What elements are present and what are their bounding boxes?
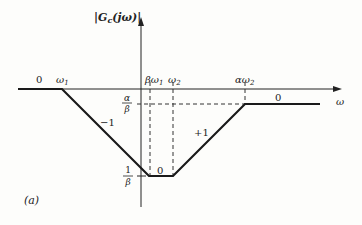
- slope-bottom-flat: 0: [157, 165, 163, 176]
- x-axis-label: ω: [336, 96, 344, 107]
- label-w2: ω2: [168, 74, 181, 87]
- slope-right-flat: 0: [275, 92, 281, 103]
- tick-alpha-over-beta: α β: [122, 93, 132, 114]
- x-axis-arrow-icon: [333, 86, 342, 92]
- label-beta-w1: βω1: [144, 74, 163, 87]
- svg-text:β: β: [124, 177, 130, 187]
- panel-label: (a): [24, 194, 39, 207]
- slope-ascending: +1: [194, 127, 209, 138]
- slope-left-flat: 0: [36, 74, 42, 85]
- bode-magnitude-diagram: |Gc(jω)| ω ω1 βω1 ω2 αω2 α β 1 β 0 −1 0 …: [0, 0, 362, 225]
- slope-descending: −1: [100, 117, 115, 128]
- y-axis-label: |Gc(jω)|: [94, 11, 141, 25]
- dashed-guides: [137, 82, 245, 176]
- tick-one-over-beta: 1 β: [123, 165, 133, 187]
- svg-text:β: β: [123, 104, 129, 114]
- label-w1: ω1: [56, 74, 69, 87]
- svg-text:1: 1: [125, 165, 131, 175]
- svg-text:α: α: [124, 93, 130, 103]
